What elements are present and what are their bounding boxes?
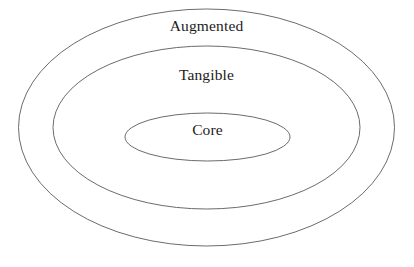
ring-label-core: Core: [1, 122, 414, 138]
ring-label-augmented: Augmented: [0, 18, 414, 34]
ring-label-tangible: Tangible: [0, 67, 414, 83]
diagram-canvas: Augmented Tangible Core: [0, 0, 414, 267]
